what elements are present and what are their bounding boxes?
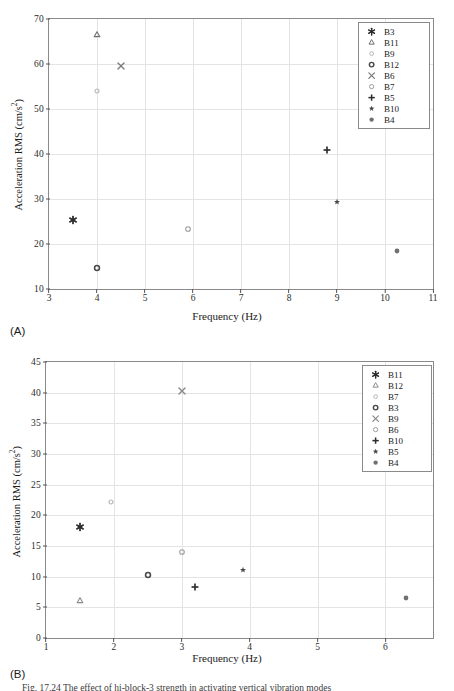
x-axis-tick-label: 9: [335, 289, 340, 303]
legend-label: B3: [384, 403, 399, 413]
legend-item-b6[interactable]: B6: [363, 70, 423, 81]
x-axis-tick-label: 2: [112, 638, 117, 652]
data-point-b6: [177, 547, 187, 557]
circle-sm-icon: [367, 391, 384, 402]
data-point-b3: [68, 215, 78, 225]
y-axis-tick-label: 45: [31, 357, 46, 367]
triangle-icon: [363, 37, 380, 48]
panel-tag-b: (B): [10, 668, 25, 680]
data-point-b9: [92, 86, 102, 96]
plus-icon: [367, 435, 384, 446]
legend-item-b11[interactable]: B11: [363, 37, 423, 48]
legend-label: B4: [384, 458, 399, 468]
data-point-b7: [183, 224, 193, 234]
circle-bold-icon: [363, 59, 380, 70]
gridline-vertical: [289, 19, 290, 289]
y-axis-tick-label: 30: [31, 449, 46, 459]
legend-item-b4[interactable]: B4: [363, 114, 423, 125]
data-point-b12: [92, 263, 102, 273]
legend-label: B12: [384, 381, 403, 391]
legend-item-b12[interactable]: B12: [363, 59, 423, 70]
legend-label: B10: [384, 436, 403, 446]
gridline-horizontal: [46, 485, 433, 486]
gridline-vertical: [250, 362, 251, 638]
circle-filled-icon: [367, 457, 384, 468]
legend-item-b7[interactable]: B7: [367, 391, 425, 402]
data-point-b10: [332, 197, 342, 207]
legend-label: B9: [380, 49, 395, 59]
legend-label: B9: [384, 414, 399, 424]
chart-panel-a: 1020304050607034567891011 Acceleration R…: [0, 0, 454, 345]
y-axis-title-b: Acceleration RMS (cm/s2): [8, 432, 22, 572]
data-point-b12: [75, 596, 85, 606]
pentagram-icon: [367, 446, 384, 457]
y-axis-tick-label: 50: [34, 104, 49, 114]
legend-item-b10[interactable]: B10: [367, 435, 425, 446]
circle-filled-icon: [363, 114, 380, 125]
y-axis-tick-label: 30: [34, 194, 49, 204]
legend-item-b9[interactable]: B9: [363, 48, 423, 59]
x-axis-tick-label: 1: [44, 638, 49, 652]
legend-item-b9[interactable]: B9: [367, 413, 425, 424]
y-axis-tick-label: 70: [34, 14, 49, 24]
legend-item-b6[interactable]: B6: [367, 424, 425, 435]
legend-item-b5[interactable]: B5: [367, 446, 425, 457]
circle-bold-icon: [367, 402, 384, 413]
legend-item-b5[interactable]: B5: [363, 92, 423, 103]
y-axis-tick-label: 35: [31, 418, 46, 428]
legend-item-b3[interactable]: B3: [363, 26, 423, 37]
pentagram-icon: [363, 103, 380, 114]
y-axis-tick-label: 15: [31, 541, 46, 551]
gridline-vertical: [241, 19, 242, 289]
data-point-b4: [392, 246, 402, 256]
figure-caption: Fig. 17.24 The effect of hi-block-3 stre…: [22, 683, 442, 691]
legend-item-b7[interactable]: B7: [363, 81, 423, 92]
data-point-b10: [190, 582, 200, 592]
data-point-b7: [105, 497, 115, 507]
x-axis-tick-label: 7: [239, 289, 244, 303]
y-axis-tick-label: 40: [34, 149, 49, 159]
x-axis-tick-label: 5: [143, 289, 148, 303]
legend-label: B5: [380, 93, 395, 103]
legend-label: B4: [380, 115, 395, 125]
data-point-b4: [401, 593, 411, 603]
x-axis-title-a: Frequency (Hz): [0, 310, 454, 322]
legend-b: B11B12B7B3B9B6B10B5B4: [362, 365, 432, 472]
x-axis-tick-label: 5: [315, 638, 320, 652]
x-axis-tick-label: 4: [95, 289, 100, 303]
legend-item-b12[interactable]: B12: [367, 380, 425, 391]
circle-sm-icon: [363, 48, 380, 59]
gridline-vertical: [97, 19, 98, 289]
legend-item-b11[interactable]: B11: [367, 369, 425, 380]
circle-icon: [363, 81, 380, 92]
y-axis-title-a-exponent: 2: [10, 102, 19, 106]
y-axis-tick-label: 40: [31, 388, 46, 398]
data-point-b5: [322, 145, 332, 155]
y-axis-tick-label: 10: [31, 572, 46, 582]
y-axis-tick-label: 25: [31, 480, 46, 490]
asterisk-icon: [363, 26, 380, 37]
data-point-b11: [75, 522, 85, 532]
y-axis-title-b-exponent: 2: [8, 449, 17, 453]
legend-label: B3: [380, 27, 395, 37]
x-axis-tick-label: 3: [47, 289, 52, 303]
circle-icon: [367, 424, 384, 435]
gridline-vertical: [337, 19, 338, 289]
gridline-horizontal: [46, 515, 433, 516]
gridline-vertical: [193, 19, 194, 289]
y-axis-title-a-close: ): [13, 99, 24, 103]
legend-item-b3[interactable]: B3: [367, 402, 425, 413]
gridline-vertical: [318, 362, 319, 638]
legend-item-b4[interactable]: B4: [367, 457, 425, 468]
gridline-vertical: [182, 362, 183, 638]
x-icon: [367, 413, 384, 424]
data-point-b5: [238, 565, 248, 575]
legend-label: B11: [384, 370, 403, 380]
plus-icon: [363, 92, 380, 103]
x-axis-tick-label: 6: [191, 289, 196, 303]
gridline-horizontal: [46, 546, 433, 547]
legend-label: B12: [380, 60, 399, 70]
legend-label: B10: [380, 104, 399, 114]
legend-item-b10[interactable]: B10: [363, 103, 423, 114]
data-point-b11: [92, 30, 102, 40]
